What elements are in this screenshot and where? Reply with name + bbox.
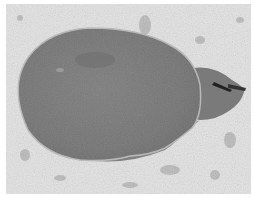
photo-canvas	[6, 4, 251, 194]
ray-spiracle	[56, 68, 64, 72]
ray-photograph	[6, 4, 251, 194]
ray-body-texture	[18, 28, 200, 161]
ray-marking	[75, 52, 115, 68]
